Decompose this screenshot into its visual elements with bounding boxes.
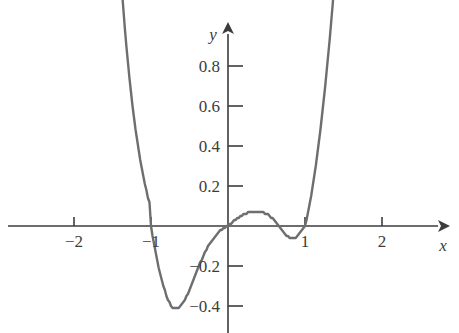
chart-figure: −2−112 0.80.60.40.2−0.2−0.4 x y — [0, 0, 459, 333]
y-tick-label: 0.6 — [199, 97, 220, 116]
x-tick-label: 1 — [301, 232, 310, 251]
y-tick-label: 0.8 — [199, 57, 220, 76]
chart-background — [0, 0, 459, 333]
y-axis-label: y — [207, 25, 217, 44]
y-tick-label: −0.4 — [189, 297, 220, 316]
x-tick-label: −2 — [65, 232, 83, 251]
x-axis-label: x — [438, 236, 447, 255]
y-tick-label: 0.4 — [199, 137, 221, 156]
y-tick-label: −0.2 — [189, 257, 220, 276]
chart-canvas: −2−112 0.80.60.40.2−0.2−0.4 x y — [0, 0, 459, 333]
x-tick-label: 2 — [378, 232, 387, 251]
y-tick-label: 0.2 — [199, 177, 220, 196]
x-tick-label: −1 — [142, 232, 160, 251]
